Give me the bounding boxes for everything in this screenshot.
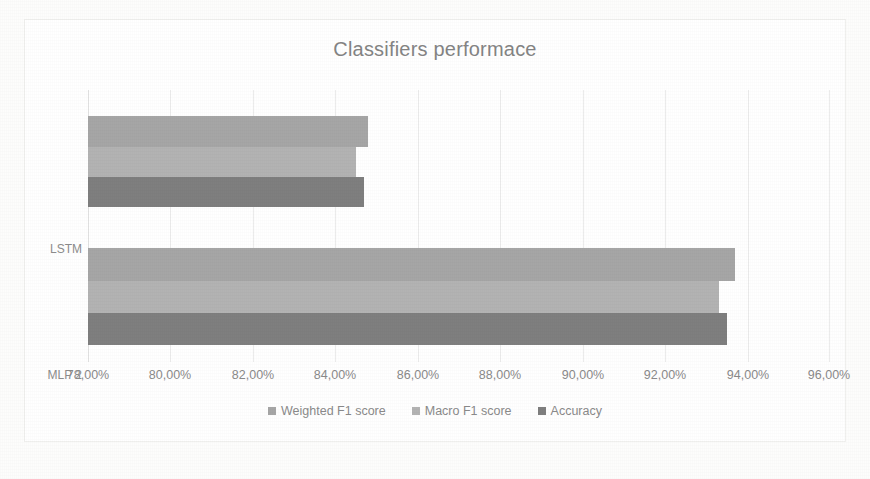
bar-group-lstm bbox=[88, 116, 830, 207]
bar-lstm-accuracy[interactable] bbox=[88, 177, 364, 207]
bar-lstm-macro-f1[interactable] bbox=[88, 147, 356, 177]
x-tick-82: 82,00% bbox=[213, 368, 293, 382]
legend-item-macro-f1[interactable]: Macro F1 score bbox=[412, 404, 512, 418]
bar-mlp2-macro-f1[interactable] bbox=[88, 281, 719, 313]
legend-label-macro-f1: Macro F1 score bbox=[425, 404, 512, 418]
category-axis: LSTM MLP 2 bbox=[4, 90, 82, 362]
legend-label-accuracy: Accuracy bbox=[551, 404, 602, 418]
x-tick-94: 94,00% bbox=[708, 368, 788, 382]
legend-swatch-icon-macro-f1 bbox=[412, 407, 420, 415]
bar-group-mlp2 bbox=[88, 248, 830, 345]
x-tick-96: 96,00% bbox=[789, 368, 869, 382]
category-label-lstm: LSTM bbox=[12, 242, 82, 256]
x-tick-86: 86,00% bbox=[378, 368, 458, 382]
bar-lstm-weighted-f1[interactable] bbox=[88, 116, 368, 147]
legend-item-accuracy[interactable]: Accuracy bbox=[538, 404, 602, 418]
x-tick-88: 88,00% bbox=[460, 368, 540, 382]
chart-title: Classifiers performace bbox=[0, 38, 870, 61]
x-tick-92: 92,00% bbox=[625, 368, 705, 382]
x-tick-90: 90,00% bbox=[543, 368, 623, 382]
legend-label-weighted-f1: Weighted F1 score bbox=[281, 404, 386, 418]
plot-area bbox=[88, 90, 830, 362]
legend-swatch-icon-accuracy bbox=[538, 407, 546, 415]
bar-mlp2-weighted-f1[interactable] bbox=[88, 248, 735, 281]
chart-legend: Weighted F1 score Macro F1 score Accurac… bbox=[0, 404, 870, 418]
bar-mlp2-accuracy[interactable] bbox=[88, 313, 727, 345]
x-tick-80: 80,00% bbox=[130, 368, 210, 382]
x-tick-84: 84,00% bbox=[295, 368, 375, 382]
chart-page: Classifiers performace LSTM MLP 2 7 bbox=[0, 0, 870, 479]
x-axis-ticks: 78,00% 80,00% 82,00% 84,00% 86,00% 88,00… bbox=[88, 368, 830, 390]
legend-swatch-icon-weighted-f1 bbox=[268, 407, 276, 415]
legend-item-weighted-f1[interactable]: Weighted F1 score bbox=[268, 404, 386, 418]
x-tick-78: 78,00% bbox=[48, 368, 128, 382]
